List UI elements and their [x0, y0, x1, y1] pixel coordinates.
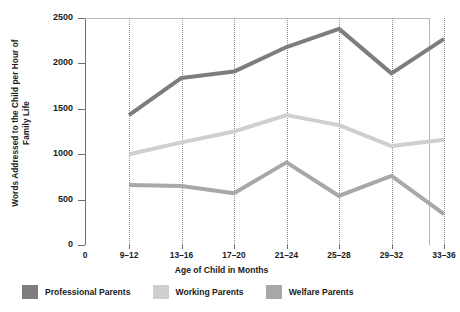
x-tick-label-13-16: 13–16	[162, 250, 202, 260]
x-tick-label-25-28: 25–28	[319, 250, 359, 260]
x-tick-label-17-20: 17–20	[214, 250, 254, 260]
legend-item-professional-parents[interactable]: Professional Parents	[22, 285, 131, 299]
x-tick-label-0: 0	[65, 250, 105, 260]
legend-swatch-welfare-parents	[266, 285, 282, 299]
legend-item-working-parents[interactable]: Working Parents	[153, 285, 244, 299]
x-tick-25-28	[339, 245, 340, 249]
legend-swatch-professional-parents	[22, 285, 38, 299]
gridline-33-36	[444, 18, 445, 245]
x-tick-21-24	[287, 245, 288, 249]
x-tick-label-29-32: 29–32	[372, 250, 412, 260]
legend-label: Working Parents	[176, 287, 244, 297]
y-tick-label-2500: 2500	[27, 12, 73, 22]
y-tick-1500	[78, 109, 85, 110]
x-tick-label-9-12: 9–12	[109, 250, 149, 260]
x-tick-label-21-24: 21–24	[267, 250, 307, 260]
x-tick-29-32	[392, 245, 393, 249]
y-tick-2500	[78, 18, 85, 19]
y-tick-label-500: 500	[27, 194, 73, 204]
x-tick-13-16	[182, 245, 183, 249]
y-tick-label-0: 0	[27, 239, 73, 249]
y-tick-2000	[78, 63, 85, 64]
x-tick-17-20	[234, 245, 235, 249]
legend-label: Welfare Parents	[289, 287, 354, 297]
series-line-working-parents	[129, 115, 444, 154]
x-axis-title: Age of Child in Months	[0, 265, 443, 275]
legend-label: Professional Parents	[45, 287, 131, 297]
legend-swatch-working-parents	[153, 285, 169, 299]
series-lines	[85, 18, 430, 245]
chart-legend: Professional ParentsWorking ParentsWelfa…	[22, 285, 375, 299]
y-tick-label-1500: 1500	[27, 103, 73, 113]
series-line-professional-parents	[129, 29, 444, 115]
series-line-welfare-parents	[129, 162, 444, 214]
y-tick-label-2000: 2000	[27, 57, 73, 67]
y-tick-0	[78, 245, 85, 246]
y-tick-500	[78, 200, 85, 201]
y-tick-label-1000: 1000	[27, 148, 73, 158]
plot-area	[85, 18, 430, 245]
x-tick-9-12	[129, 245, 130, 249]
legend-item-welfare-parents[interactable]: Welfare Parents	[266, 285, 354, 299]
y-tick-1000	[78, 154, 85, 155]
x-tick-label-33-36: 33–36	[424, 250, 460, 260]
x-tick-33-36	[444, 245, 445, 249]
